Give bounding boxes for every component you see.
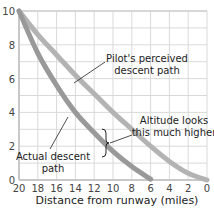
- x-tick-label: 14: [69, 183, 82, 194]
- x-tick-label: 2: [185, 183, 191, 194]
- y-tick-label: 4: [9, 107, 15, 118]
- actual-leader-line: [50, 117, 68, 149]
- x-tick-label: 4: [166, 183, 172, 194]
- y-tick-label: 8: [9, 40, 15, 51]
- x-tick-label: 16: [50, 183, 63, 194]
- perceived-annotation-line2: descent path: [114, 65, 180, 76]
- x-tick-label: 10: [107, 183, 120, 194]
- perceived-leader-line: [74, 62, 105, 83]
- x-tick-label: 18: [31, 183, 44, 194]
- perceived-annotation-line1: Pilot's perceived: [106, 53, 188, 64]
- descent-path-chart: 0246810 20181614121086420 Altitude looks…: [0, 0, 214, 209]
- x-tick-labels: 20181614121086420: [13, 183, 211, 194]
- y-tick-label: 10: [2, 6, 15, 17]
- y-tick-label: 2: [9, 141, 15, 152]
- gap-annotation-line1: Altitude looks: [140, 115, 208, 126]
- actual-annotation-line1: Actual descent: [16, 151, 90, 162]
- gap-annotation-line2: this much higher: [132, 127, 214, 138]
- x-tick-label: 12: [88, 183, 101, 194]
- y-tick-label: 6: [9, 74, 15, 85]
- y-tick-labels: 0246810: [2, 6, 15, 186]
- x-tick-label: 6: [147, 183, 153, 194]
- x-axis-label: Distance from runway (miles): [36, 194, 199, 207]
- x-tick-label: 20: [13, 183, 26, 194]
- x-tick-label: 8: [129, 183, 135, 194]
- x-tick-label: 0: [204, 183, 210, 194]
- actual-annotation-line2: path: [42, 163, 65, 174]
